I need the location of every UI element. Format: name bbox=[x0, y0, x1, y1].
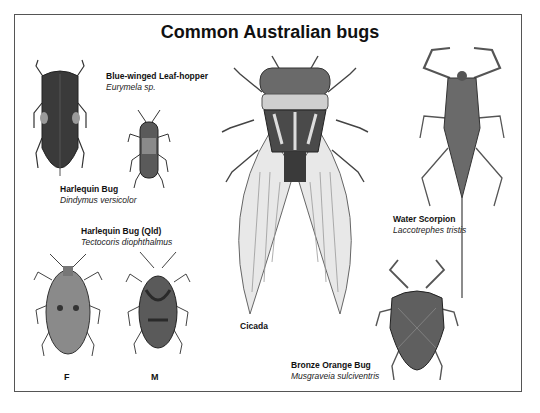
harlequin-label: Harlequin Bug Dindymus versicolor bbox=[60, 184, 137, 206]
scientific-name: Musgraveia sulciventris bbox=[291, 371, 379, 382]
bronze-orange-bug-illustration bbox=[372, 258, 462, 383]
common-name: Water Scorpion bbox=[393, 214, 466, 225]
cicada-illustration bbox=[210, 52, 380, 322]
female-marker: F bbox=[64, 372, 70, 382]
common-name: Cicada bbox=[240, 321, 268, 332]
water-scorpion-label: Water Scorpion Laccotrephes tristis bbox=[393, 214, 466, 236]
harlequin-bug-illustration bbox=[124, 108, 174, 190]
leafhopper-illustration bbox=[30, 58, 90, 188]
common-name: Bronze Orange Bug bbox=[291, 360, 379, 371]
scientific-name: Laccotrephes tristis bbox=[393, 225, 466, 236]
male-marker: M bbox=[151, 372, 159, 382]
harlequin-qld-female-illustration bbox=[32, 250, 104, 360]
common-name: Harlequin Bug bbox=[60, 184, 137, 195]
poster-title: Common Australian bugs bbox=[0, 22, 540, 43]
common-name: Blue-winged Leaf-hopper bbox=[106, 71, 208, 82]
common-name: Harlequin Bug (Qld) bbox=[81, 226, 172, 237]
cicada-label: Cicada bbox=[240, 321, 268, 332]
harlequin-qld-label: Harlequin Bug (Qld) Tectocoris diophthal… bbox=[81, 226, 172, 248]
leafhopper-label: Blue-winged Leaf-hopper Eurymela sp. bbox=[106, 71, 208, 93]
scientific-name: Eurymela sp. bbox=[106, 82, 208, 93]
harlequin-qld-male-illustration bbox=[124, 250, 192, 360]
scientific-name: Dindymus versicolor bbox=[60, 195, 137, 206]
bronze-orange-bug-label: Bronze Orange Bug Musgraveia sulciventri… bbox=[291, 360, 379, 382]
scientific-name: Tectocoris diophthalmus bbox=[81, 237, 172, 248]
